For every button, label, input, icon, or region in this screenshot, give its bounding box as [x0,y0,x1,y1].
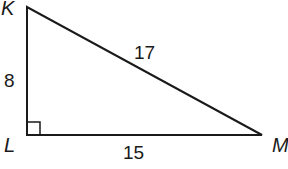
triangle-diagram: K L M 8 17 15 [0,0,288,169]
vertex-label-l: L [4,134,15,156]
side-label-lm: 15 [123,142,144,163]
side-label-kl: 8 [4,70,15,91]
side-label-km: 17 [134,42,155,63]
triangle-klm [27,7,262,135]
vertex-label-k: K [1,0,16,19]
vertex-label-m: M [272,134,288,156]
right-angle-marker [27,122,40,135]
